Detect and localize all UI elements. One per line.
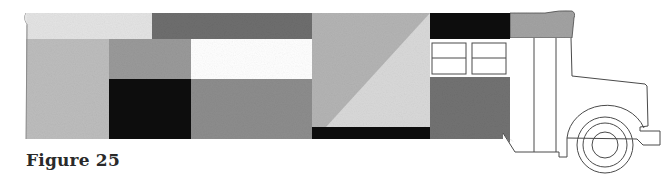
lower-mid-gray-block (191, 79, 312, 139)
wheel-middle-ring (583, 123, 627, 167)
cab-roof (510, 11, 575, 38)
cab-bottom-outline (503, 133, 567, 157)
lower-black-block (109, 79, 191, 139)
white-window-block (191, 39, 312, 79)
left-light-gray-column (26, 39, 109, 139)
bottom-black-strip (312, 127, 430, 139)
top-dark-gray-block (152, 13, 312, 39)
diagonal-split-block (312, 13, 430, 127)
fender-arc (567, 105, 644, 138)
wheel-outer-ring (577, 117, 633, 173)
front-wheel (577, 117, 633, 173)
figure-caption: Figure 25 (26, 150, 120, 170)
cab-outline (503, 38, 660, 157)
top-left-light-block (26, 13, 152, 39)
upper-mid-gray-block (109, 39, 191, 79)
figure: Figure 25 (0, 0, 670, 176)
wheel-hub (592, 132, 618, 158)
black-top-block (430, 13, 510, 39)
hood-outline (571, 38, 660, 145)
